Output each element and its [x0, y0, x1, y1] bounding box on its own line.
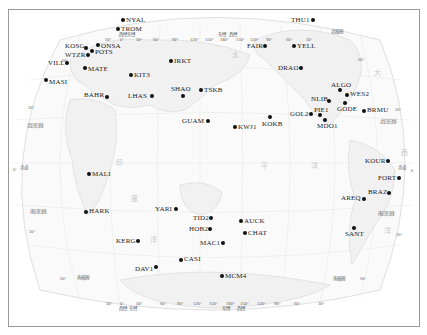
- station-label: AREQ: [341, 195, 361, 202]
- lat-label: 60°: [360, 276, 366, 281]
- station-dot[interactable]: [233, 125, 237, 129]
- station-label: TID2: [193, 215, 209, 222]
- station-label: GUAM: [182, 118, 204, 125]
- station-dot[interactable]: [181, 94, 185, 98]
- lat-label: 赤道: [20, 165, 28, 170]
- station-dot[interactable]: [209, 216, 213, 220]
- bottom-tick: 180°: [226, 301, 235, 306]
- station-dot[interactable]: [309, 112, 313, 116]
- ocean-label: 印: [116, 157, 123, 167]
- station-dot[interactable]: [199, 88, 203, 92]
- top-tick: 180°: [220, 37, 229, 42]
- station-dot[interactable]: [208, 227, 212, 231]
- station-label: DRAO: [278, 65, 299, 72]
- bottom-tick: 120°: [193, 301, 202, 306]
- station-dot[interactable]: [174, 207, 178, 211]
- station-label: YARI: [155, 206, 172, 213]
- ocean-label: 度: [131, 193, 138, 203]
- lat-label: 南回归线: [30, 209, 46, 214]
- ocean-label: 洋: [311, 160, 318, 170]
- station-dot[interactable]: [116, 27, 120, 31]
- station-dot[interactable]: [129, 73, 133, 77]
- lat-label: 南极圈: [333, 276, 345, 281]
- lat-label: 60°: [60, 276, 66, 281]
- station-label: LHAS: [128, 93, 147, 100]
- ocean-label: 大: [374, 67, 381, 77]
- station-label: FORT: [378, 175, 396, 182]
- station-dot[interactable]: [221, 241, 225, 245]
- station-label: BAHR: [84, 92, 104, 99]
- station-label: ALGO: [331, 82, 351, 89]
- station-label: CASI: [184, 256, 201, 263]
- station-dot[interactable]: [299, 66, 303, 70]
- bottom-tick: 30°: [318, 301, 324, 306]
- station-dot[interactable]: [83, 66, 87, 70]
- bottom-tick: 东经: [222, 306, 230, 311]
- station-dot[interactable]: [362, 197, 366, 201]
- station-dot[interactable]: [154, 265, 158, 269]
- station-label: NLIB: [311, 96, 328, 103]
- top-tick: 60°: [153, 37, 159, 42]
- top-tick: 150°: [236, 37, 245, 42]
- station-dot[interactable]: [220, 274, 224, 278]
- top-tick: 90°: [172, 37, 178, 42]
- station-dot[interactable]: [345, 93, 349, 97]
- station-dot[interactable]: [105, 95, 109, 99]
- ocean-label: 平: [261, 160, 268, 170]
- station-dot[interactable]: [150, 94, 154, 98]
- station-label: WES2: [350, 91, 369, 98]
- lat-label: 0°: [13, 167, 17, 172]
- station-dot[interactable]: [96, 43, 100, 47]
- station-dot[interactable]: [206, 119, 210, 123]
- station-dot[interactable]: [136, 239, 140, 243]
- station-dot[interactable]: [362, 109, 366, 113]
- station-dot[interactable]: [84, 210, 88, 214]
- station-label: KIT3: [134, 72, 150, 79]
- station-dot[interactable]: [243, 231, 247, 235]
- station-label: MAC1: [200, 240, 220, 247]
- station-label: MASI: [49, 79, 67, 86]
- top-tick: 150°: [205, 37, 214, 42]
- station-dot[interactable]: [387, 191, 391, 195]
- station-dot[interactable]: [292, 44, 296, 48]
- lat-label: 30°: [28, 105, 34, 110]
- ocean-label: 洋: [150, 234, 157, 244]
- station-label: MCM4: [225, 273, 246, 280]
- bottom-tick: 150°: [240, 301, 249, 306]
- station-dot[interactable]: [86, 53, 90, 57]
- top-tick: 90°: [266, 37, 272, 42]
- station-dot[interactable]: [169, 59, 173, 63]
- station-dot[interactable]: [397, 176, 401, 180]
- top-tick: 60°: [286, 37, 292, 42]
- lat-label: 0: [411, 168, 413, 173]
- station-label: POTS: [95, 49, 113, 56]
- station-dot[interactable]: [90, 49, 94, 53]
- bottom-tick: 西经: [237, 306, 245, 311]
- station-label: SANT: [345, 231, 364, 238]
- station-dot[interactable]: [44, 78, 48, 82]
- station-dot[interactable]: [263, 44, 267, 48]
- station-label: THU1: [291, 17, 310, 24]
- station-dot[interactable]: [239, 219, 243, 223]
- station-label: PIE1: [314, 107, 329, 114]
- station-dot[interactable]: [121, 18, 125, 22]
- station-label: AUCK: [244, 218, 265, 225]
- lat-label: 30°: [396, 232, 402, 237]
- lat-label: 60°: [358, 57, 364, 62]
- station-dot[interactable]: [87, 172, 91, 176]
- lat-label: 30°: [395, 107, 401, 112]
- station-dot[interactable]: [311, 18, 315, 22]
- station-label: KOSG: [65, 43, 85, 50]
- station-label: KOUR: [365, 158, 386, 165]
- station-dot[interactable]: [268, 115, 272, 119]
- station-dot[interactable]: [386, 159, 390, 163]
- station-label: CHAT: [248, 230, 267, 237]
- station-label: KERG: [116, 238, 136, 245]
- station-label: MDO1: [317, 123, 338, 130]
- station-dot[interactable]: [65, 61, 69, 65]
- station-dot[interactable]: [179, 258, 183, 262]
- bottom-tick: 60°: [294, 301, 300, 306]
- lat-label: 南回归线: [378, 211, 394, 216]
- ocean-label: 洋: [384, 225, 391, 235]
- station-label: FAIR: [247, 43, 263, 50]
